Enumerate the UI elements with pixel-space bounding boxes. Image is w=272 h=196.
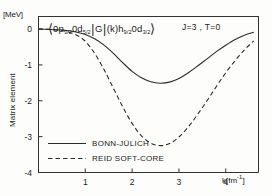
ket-close-bracket: ⟩ <box>150 21 155 36</box>
ket-argument: (k)h <box>107 23 124 34</box>
matrix-element-formula: ⟨0p3/20d5/2|G|(k)h9/20d3/2⟩ <box>48 22 156 36</box>
y-tick-label-4: -4 <box>10 169 32 178</box>
x-tick-label-1: 2 <box>124 178 140 187</box>
ket-argument-subscript: 9/2 <box>124 29 132 35</box>
bra-orbital-1-subscript: 3/2 <box>64 29 72 35</box>
bra-orbital-2-subscript: 5/2 <box>83 29 91 35</box>
quantum-numbers-label: J=3 , T=0 <box>182 23 220 32</box>
bra-orbital-2: 0d <box>72 23 83 34</box>
y-tick-label-2: -2 <box>10 97 32 106</box>
curve-bonn-j-lich <box>39 29 254 83</box>
axes-frame <box>38 16 259 173</box>
figure-container: [MeV] Matrix element k[fm-1] ⟨0p3/20d5/2… <box>0 0 272 196</box>
legend-item-bonn-julich: BONN-JÜLICH <box>92 140 149 148</box>
legend-item-reid-soft-core: REID SOFT-CORE <box>92 155 164 163</box>
curve-reid-soft-core <box>39 29 254 146</box>
y-tick-label-0: 0 <box>10 25 32 34</box>
legend-line-samples <box>48 144 86 159</box>
y-axis-unit: [MeV] <box>3 11 23 19</box>
data-curves <box>39 29 254 146</box>
operator-symbol: G <box>95 23 103 34</box>
y-tick-label-1: -1 <box>10 61 32 70</box>
x-tick-label-0: 1 <box>77 178 93 187</box>
ket-orbital-2: 0d <box>132 23 143 34</box>
x-tick-label-2: 3 <box>171 178 187 187</box>
x-axis-label-bracket: ] <box>242 176 244 185</box>
y-tick-label-3: -3 <box>10 133 32 142</box>
x-tick-label-3: 4 <box>218 178 234 187</box>
bra-orbital-1: 0p <box>53 23 64 34</box>
axis-ticks <box>39 29 226 172</box>
